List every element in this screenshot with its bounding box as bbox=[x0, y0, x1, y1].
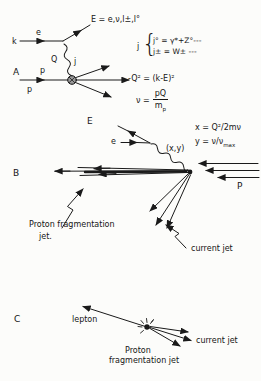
current-jet-caption-b: current jet bbox=[191, 244, 233, 253]
scattered-lepton-E-label: E bbox=[87, 116, 93, 126]
x-equation: x = Q²/2mν bbox=[195, 123, 241, 132]
charged-current-equation: j± = W± --- bbox=[153, 48, 197, 57]
nu-equation-lhs: ν = bbox=[136, 96, 150, 105]
q-squared-equation: -Q² = (k-E)² bbox=[128, 74, 175, 83]
neutral-current-equation: j° = γ*+Z°--- bbox=[153, 37, 201, 46]
diagram-lineart bbox=[0, 0, 261, 381]
nu-equation-fraction: pQ mp bbox=[153, 89, 168, 112]
photon-j-label: j bbox=[74, 57, 76, 66]
proton-fragmentation-caption-line1: Proton fragmentation bbox=[29, 220, 115, 229]
nu-equation: ν = pQ mp bbox=[136, 89, 168, 112]
photon-wave-a bbox=[62, 44, 74, 81]
incoming-lepton-k-label: k bbox=[12, 37, 17, 46]
figure-page: A k e E = e,ν,l±,l° Q j p p j { j° = γ*+… bbox=[0, 0, 261, 381]
proton-line-p-label: p bbox=[40, 66, 45, 75]
exchange-xy-label: (x,y) bbox=[166, 144, 184, 153]
y-equation: y = ν/νmax bbox=[195, 137, 235, 148]
incoming-proton-p-label: p bbox=[27, 85, 32, 94]
panel-b-label: B bbox=[13, 168, 19, 178]
nu-equation-denominator: mp bbox=[153, 99, 168, 112]
proton-fragmentation-caption-c-line2: fragmentation jet bbox=[109, 356, 179, 365]
incoming-lepton-e-label: e bbox=[111, 137, 116, 146]
panel-a-label: A bbox=[13, 67, 19, 77]
scattered-lepton-equation: E = e,ν,l±,l° bbox=[91, 15, 140, 24]
starburst-vertex bbox=[144, 324, 149, 329]
photon-q-label: Q bbox=[51, 55, 57, 64]
current-bracket-j: j bbox=[137, 42, 139, 51]
current-jet-pointer bbox=[166, 225, 186, 248]
proton-fragmentation-caption-c-line1: Proton bbox=[125, 346, 151, 355]
proton-fragmentation-caption-line2: jet. bbox=[39, 232, 52, 241]
incoming-proton-P-label: P bbox=[237, 181, 242, 191]
current-jet-caption-c: current jet bbox=[196, 336, 238, 345]
nu-equation-numerator: pQ bbox=[153, 89, 168, 99]
panel-c-lineart bbox=[83, 307, 191, 347]
lepton-caption: lepton bbox=[72, 315, 97, 324]
lepton-line-e-label: e bbox=[36, 28, 41, 37]
panel-c-label: C bbox=[14, 314, 20, 324]
